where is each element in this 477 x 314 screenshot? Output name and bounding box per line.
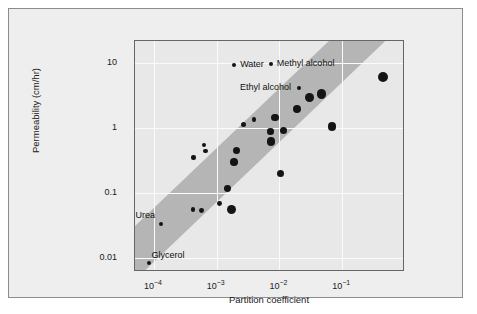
x-tick-exponent: −4 [154, 279, 162, 286]
data-point [328, 122, 336, 130]
gridline-vertical [279, 41, 280, 270]
x-tick-base: 10 [269, 281, 279, 291]
data-point [293, 105, 301, 113]
data-point [241, 122, 246, 127]
y-tick-label: 0.1 [57, 188, 117, 197]
data-point [227, 205, 236, 214]
data-point [277, 170, 284, 177]
data-point [267, 128, 274, 135]
plot-area: GlycerolUreaWaterMethyl alcoholEthyl alc… [134, 40, 404, 271]
data-point [203, 149, 208, 154]
x-tick-label: 10−2 [248, 278, 308, 291]
y-axis-title: Permeability (cm/hr) [30, 41, 41, 181]
y-tick-label: 1 [57, 123, 117, 132]
annotation-water: Water [240, 60, 264, 69]
y-tick-label: 10 [57, 58, 117, 67]
figure-panel: Permeability (cm/hr) Partition coefficie… [8, 8, 463, 298]
data-point [202, 143, 206, 147]
annotation-glycerol: Glycerol [151, 251, 184, 260]
data-point [224, 185, 231, 192]
correlation-band [134, 40, 404, 271]
x-tick-label: 10−4 [123, 278, 183, 291]
data-point [191, 207, 196, 212]
data-point [191, 155, 195, 159]
gridline-vertical [342, 41, 343, 270]
x-axis-title: Partition coefficient [134, 294, 404, 305]
data-point [252, 117, 256, 121]
data-point-methyl-alcohol [269, 62, 273, 66]
x-tick-exponent: −3 [217, 279, 225, 286]
gridline-vertical [154, 41, 155, 270]
y-tick-label: 0.01 [57, 253, 117, 262]
data-point [199, 208, 204, 213]
x-tick-base: 10 [144, 281, 154, 291]
annotation-urea: Urea [136, 211, 156, 220]
x-tick-label: 10−3 [186, 278, 246, 291]
data-point [317, 89, 326, 98]
x-tick-base: 10 [207, 281, 217, 291]
gridline-horizontal [135, 193, 403, 194]
data-point [280, 127, 287, 134]
figure-root: Permeability (cm/hr) Partition coefficie… [0, 0, 477, 314]
data-point [217, 201, 222, 206]
data-point [378, 72, 388, 82]
x-tick-exponent: −2 [279, 279, 287, 286]
x-tick-base: 10 [332, 281, 342, 291]
gridline-vertical [217, 41, 218, 270]
x-tick-exponent: −1 [342, 279, 350, 286]
data-point [267, 137, 275, 145]
data-point-water [232, 63, 236, 67]
x-tick-label: 10−1 [311, 278, 371, 291]
data-point [305, 93, 314, 102]
data-point [230, 158, 238, 166]
annotation-methyl-alcohol: Methyl alcohol [277, 59, 335, 68]
annotation-ethyl-alcohol: Ethyl alcohol [240, 83, 291, 92]
